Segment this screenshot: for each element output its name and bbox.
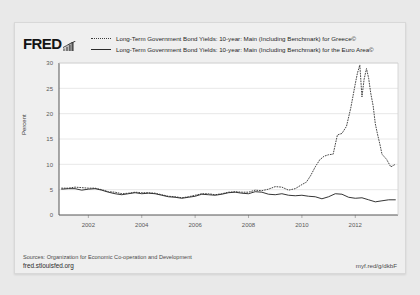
fred-wordmark: FRED — [23, 36, 61, 51]
legend-swatch-dotted-icon — [91, 35, 111, 42]
svg-text:10: 10 — [46, 162, 53, 168]
svg-text:30: 30 — [46, 60, 53, 66]
chart-canvas: 051015202530200220042006200820102012 — [15, 57, 407, 253]
legend-item-greece: Long-Term Government Bond Yields: 10-yea… — [91, 34, 399, 43]
chart-legend: Long-Term Government Bond Yields: 10-yea… — [91, 34, 399, 56]
fred-chart-card: FRED Long-Term Government Bond Yields: 1… — [14, 22, 406, 274]
legend-label-greece: Long-Term Government Bond Yields: 10-yea… — [116, 35, 356, 43]
svg-text:2012: 2012 — [349, 222, 363, 228]
svg-text:25: 25 — [46, 86, 53, 92]
svg-text:2008: 2008 — [242, 222, 256, 228]
svg-text:15: 15 — [46, 136, 53, 142]
chart-footer: Sources: Organization for Economic Co-op… — [15, 251, 405, 273]
legend-item-euro-area: Long-Term Government Bond Yields: 10-yea… — [91, 45, 399, 54]
svg-text:2002: 2002 — [82, 222, 96, 228]
svg-text:2010: 2010 — [295, 222, 309, 228]
svg-text:2006: 2006 — [188, 222, 202, 228]
fred-logo: FRED — [23, 36, 76, 51]
svg-text:20: 20 — [46, 111, 53, 117]
legend-label-euro-area: Long-Term Government Bond Yields: 10-yea… — [116, 46, 374, 54]
svg-text:5: 5 — [50, 187, 54, 193]
bar-chart-icon — [63, 41, 76, 51]
svg-text:0: 0 — [50, 212, 54, 218]
fred-site-url[interactable]: fred.stlouisfed.org — [23, 262, 74, 269]
svg-text:2004: 2004 — [135, 222, 149, 228]
chart-header: FRED Long-Term Government Bond Yields: 1… — [15, 23, 405, 57]
short-url[interactable]: myf.red/g/dkbF — [356, 262, 397, 269]
source-note: Sources: Organization for Economic Co-op… — [23, 254, 192, 260]
legend-swatch-solid-icon — [91, 46, 111, 53]
plot-area: Percent 05101520253020022004200620082010… — [15, 57, 405, 253]
